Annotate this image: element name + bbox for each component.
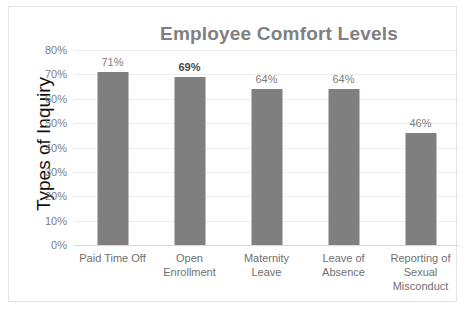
- chart-title: Employee Comfort Levels: [129, 21, 429, 47]
- x-axis-category-labels: Paid Time OffOpen EnrollmentMaternity Le…: [74, 251, 459, 309]
- plot-area: 71%69%64%64%46%: [74, 50, 459, 245]
- bar-group[interactable]: 64%: [305, 50, 382, 245]
- y-tick-label: 80%: [23, 43, 67, 57]
- y-tick-label: 0%: [23, 238, 67, 252]
- y-tick-label: 20%: [23, 189, 67, 203]
- x-axis-line: [74, 245, 459, 246]
- bar-group[interactable]: 69%: [151, 50, 228, 245]
- y-tick-label: 50%: [23, 116, 67, 130]
- y-tick-label: 40%: [23, 141, 67, 155]
- bar-value-label: 71%: [74, 55, 151, 69]
- x-category-label: Paid Time Off: [74, 251, 151, 265]
- y-tick-label: 70%: [23, 67, 67, 81]
- bar-group[interactable]: 64%: [228, 50, 305, 245]
- x-category-label: Maternity Leave: [228, 251, 305, 279]
- bar-value-label: 69%: [151, 60, 228, 74]
- chart-container: Employee Comfort Levels Types of Inquiry…: [8, 6, 457, 302]
- bar[interactable]: [174, 77, 205, 245]
- bar-group[interactable]: 46%: [382, 50, 459, 245]
- bar-group[interactable]: 71%: [74, 50, 151, 245]
- y-tick-label: 10%: [23, 214, 67, 228]
- x-category-label: Reporting of Sexual Misconduct: [382, 251, 459, 293]
- y-tick-label: 60%: [23, 92, 67, 106]
- bar-value-label: 64%: [305, 72, 382, 86]
- bar[interactable]: [405, 133, 436, 245]
- bar[interactable]: [328, 89, 359, 245]
- bar[interactable]: [251, 89, 282, 245]
- x-category-label: Leave of Absence: [305, 251, 382, 279]
- y-tick-label: 30%: [23, 165, 67, 179]
- bar-value-label: 46%: [382, 116, 459, 130]
- x-category-label: Open Enrollment: [151, 251, 228, 279]
- bar-value-label: 64%: [228, 72, 305, 86]
- bar[interactable]: [97, 72, 128, 245]
